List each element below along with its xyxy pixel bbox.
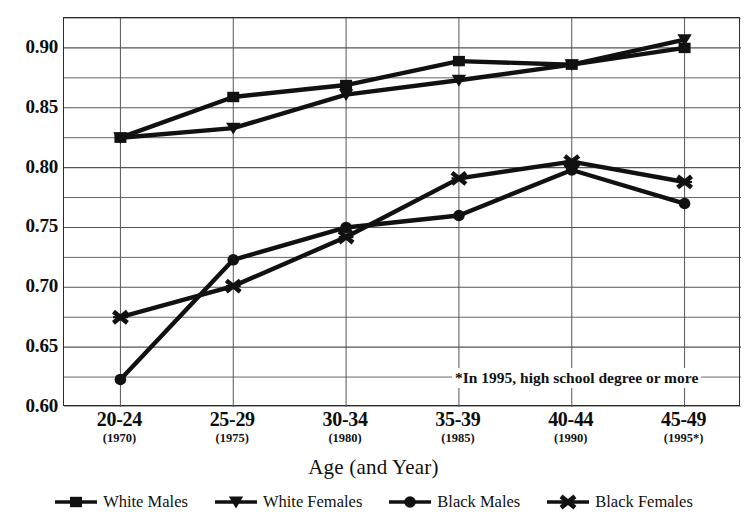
data-point-marker (453, 56, 465, 66)
series-line (120, 40, 684, 138)
x-axis-age-label: 40-44 (548, 408, 593, 430)
data-point-marker (453, 210, 465, 222)
x-axis-year-label: (1985) (435, 431, 480, 446)
legend-item-white-males[interactable]: White Males (54, 492, 188, 512)
x-axis-age-label: 35-39 (435, 408, 480, 430)
y-axis-tick-label: 0.65 (2, 335, 58, 357)
legend-item-black-females[interactable]: Black Females (546, 492, 693, 512)
y-axis-tick-label: 0.60 (2, 395, 58, 417)
x-axis-tick-label: 45-49(1995*) (661, 408, 706, 446)
y-axis-tick-label: 0.90 (2, 36, 58, 58)
series-line (120, 170, 684, 379)
y-axis-tick-label: 0.75 (2, 215, 58, 237)
legend-marker-square-icon (54, 494, 98, 510)
legend-label: White Females (263, 492, 362, 512)
x-axis-year-label: (1970) (97, 431, 142, 446)
y-axis-tick-label: 0.85 (2, 96, 58, 118)
y-axis-tick-label: 0.70 (2, 275, 58, 297)
data-point-marker (340, 80, 352, 90)
legend-label: White Males (103, 492, 188, 512)
x-axis-age-label: 30-34 (322, 408, 367, 430)
x-axis-year-label: (1995*) (661, 431, 706, 446)
data-point-marker (679, 198, 691, 210)
y-axis-tick-label: 0.80 (2, 156, 58, 178)
chart-container: 0.600.650.700.750.800.850.90 *In 1995, h… (0, 0, 747, 530)
legend-item-black-males[interactable]: Black Males (388, 492, 520, 512)
x-axis-title: Age (and Year) (0, 455, 747, 480)
legend-marker-glyph (70, 497, 82, 507)
legend-marker-glyph (561, 496, 576, 507)
x-axis-tick-label: 35-39(1985) (435, 408, 480, 446)
chart-annotation-note: *In 1995, high school degree or more (452, 368, 701, 388)
x-axis-age-label: 45-49 (661, 408, 706, 430)
series-line (120, 162, 684, 318)
legend-item-white-females[interactable]: White Females (214, 492, 362, 512)
series-line (120, 48, 684, 138)
x-axis-tick-label: 40-44(1990) (548, 408, 593, 446)
x-axis-tick-label: 30-34(1980) (322, 408, 367, 446)
legend-label: Black Females (595, 492, 693, 512)
x-axis-age-label: 20-24 (97, 408, 142, 430)
legend-label: Black Males (437, 492, 520, 512)
legend-marker-triangle-down-icon (214, 494, 258, 510)
legend-marker-circle-icon (388, 494, 432, 510)
data-point-marker (227, 254, 239, 266)
chart-plot-svg (64, 18, 741, 407)
data-point-marker (227, 92, 239, 102)
chart-legend: White MalesWhite FemalesBlack MalesBlack… (0, 492, 747, 512)
legend-marker-x-star-icon (546, 494, 590, 510)
x-axis-tick-label: 20-24(1970) (97, 408, 142, 446)
x-axis-year-label: (1980) (322, 431, 367, 446)
x-axis-age-label: 25-29 (210, 408, 255, 430)
x-axis-tick-labels: 20-24(1970)25-29(1975)30-34(1980)35-39(1… (63, 408, 740, 456)
plot-area (63, 17, 740, 406)
legend-marker-glyph (405, 496, 417, 508)
x-axis-tick-label: 25-29(1975) (210, 408, 255, 446)
x-axis-year-label: (1990) (548, 431, 593, 446)
data-point-marker (115, 374, 127, 386)
x-axis-year-label: (1975) (210, 431, 255, 446)
y-axis-tick-labels: 0.600.650.700.750.800.850.90 (0, 0, 58, 530)
series-white-females (113, 34, 692, 144)
